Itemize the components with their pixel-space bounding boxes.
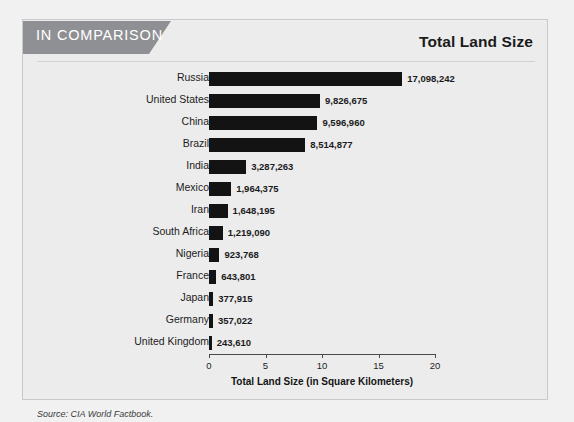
bar-track: 357,022	[209, 310, 549, 332]
bar-row: Russia17,098,242	[23, 68, 549, 90]
x-axis-tick-label: 20	[430, 360, 441, 371]
bar-track: 1,964,375	[209, 178, 549, 200]
bar-row: United States9,826,675	[23, 90, 549, 112]
bar-category-label: India	[49, 159, 209, 171]
x-axis-tick-label: 15	[373, 360, 384, 371]
bar-category-label: Brazil	[49, 137, 209, 149]
bar-category-label: Mexico	[49, 181, 209, 193]
bar	[209, 226, 223, 240]
bar-row: Germany357,022	[23, 310, 549, 332]
x-axis-tick-label: 10	[317, 360, 328, 371]
bar-row: France643,801	[23, 266, 549, 288]
x-axis-tick	[379, 354, 380, 358]
bar-value-label: 8,514,877	[310, 138, 352, 152]
bar-category-label: China	[49, 115, 209, 127]
x-axis-tick	[209, 354, 210, 358]
bar	[209, 138, 305, 152]
bar-track: 923,768	[209, 244, 549, 266]
bar-value-label: 1,964,375	[236, 182, 278, 196]
bar-row: South Africa1,219,090	[23, 222, 549, 244]
bar-value-label: 243,610	[217, 336, 251, 350]
bar-category-label: France	[49, 269, 209, 281]
bar-track: 243,610	[209, 332, 549, 354]
bar	[209, 270, 216, 284]
bar-track: 9,826,675	[209, 90, 549, 112]
bar-value-label: 3,287,263	[251, 160, 293, 174]
bar	[209, 160, 246, 174]
bar-category-label: Nigeria	[49, 247, 209, 259]
bar-row: China9,596,960	[23, 112, 549, 134]
bar-row: India3,287,263	[23, 156, 549, 178]
x-axis-title: Total Land Size (in Square Kilometers)	[209, 376, 435, 387]
bar-track: 643,801	[209, 266, 549, 288]
bar-row: Japan377,915	[23, 288, 549, 310]
bar-track: 1,648,195	[209, 200, 549, 222]
bar-category-label: United Kingdom	[49, 335, 209, 347]
bar-value-label: 377,915	[218, 292, 252, 306]
x-axis-tick-label: 5	[263, 360, 268, 371]
bar-category-label: Russia	[49, 71, 209, 83]
bar-row: Nigeria923,768	[23, 244, 549, 266]
comparison-chart-page: IN COMPARISON Total Land Size Russia17,0…	[0, 0, 574, 422]
x-axis-tick	[435, 354, 436, 358]
bar-category-label: South Africa	[49, 225, 209, 237]
bar-value-label: 1,648,195	[233, 204, 275, 218]
bar-value-label: 357,022	[218, 314, 252, 328]
source-note: Source: CIA World Factbook.	[37, 409, 153, 419]
bar-category-label: Japan	[49, 291, 209, 303]
banner-label: IN COMPARISON	[36, 27, 163, 43]
bar-category-label: Iran	[49, 203, 209, 215]
bar	[209, 94, 320, 108]
bar	[209, 248, 219, 262]
bar-row: Mexico1,964,375	[23, 178, 549, 200]
bar-category-label: United States	[49, 93, 209, 105]
bar-row: Brazil8,514,877	[23, 134, 549, 156]
bar	[209, 182, 231, 196]
bar-value-label: 9,596,960	[322, 116, 364, 130]
bar-row: Iran1,648,195	[23, 200, 549, 222]
bar-track: 3,287,263	[209, 156, 549, 178]
bar-value-label: 17,098,242	[407, 72, 455, 86]
bar	[209, 72, 402, 86]
bar-value-label: 1,219,090	[228, 226, 270, 240]
x-axis-tick	[266, 354, 267, 358]
bar	[209, 292, 213, 306]
bar-row: United Kingdom243,610	[23, 332, 549, 354]
bar-track: 9,596,960	[209, 112, 549, 134]
bar-track: 377,915	[209, 288, 549, 310]
bar-rows: Russia17,098,242United States9,826,675Ch…	[23, 68, 549, 354]
bar	[209, 204, 228, 218]
bar-track: 8,514,877	[209, 134, 549, 156]
bar-category-label: Germany	[49, 313, 209, 325]
x-axis-tick-label: 0	[206, 360, 211, 371]
x-axis-tick	[322, 354, 323, 358]
bar-chart: Russia17,098,242United States9,826,675Ch…	[23, 61, 549, 401]
bar-value-label: 923,768	[224, 248, 258, 262]
bar-track: 1,219,090	[209, 222, 549, 244]
bar-value-label: 643,801	[221, 270, 255, 284]
bar-value-label: 9,826,675	[325, 94, 367, 108]
bar-track: 17,098,242	[209, 68, 549, 90]
bar	[209, 314, 213, 328]
bar	[209, 336, 212, 350]
page-title: Total Land Size	[419, 33, 533, 51]
chart-card: IN COMPARISON Total Land Size Russia17,0…	[22, 19, 548, 400]
bar	[209, 116, 317, 130]
